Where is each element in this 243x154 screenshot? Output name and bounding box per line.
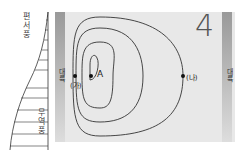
point-na-label: (나) (186, 72, 197, 82)
panel-number: 4 (195, 8, 214, 43)
point-a-label: A (97, 69, 103, 79)
point-ga-label: (가) (70, 80, 81, 90)
